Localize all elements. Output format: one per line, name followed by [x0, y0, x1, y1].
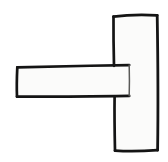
horizontal-bar-bottom-edge: [17, 96, 129, 97]
vertical-bar-right-edge: [157, 15, 158, 150]
drawing-canvas: [0, 0, 168, 162]
line-drawing: [0, 0, 168, 162]
horizontal-bar-left-edge: [17, 67, 18, 96]
horizontal-bar-fill: [17, 65, 129, 97]
vertical-bar-bottom-edge: [115, 150, 158, 151]
vertical-bar-left-edge-upper: [113, 17, 114, 66]
